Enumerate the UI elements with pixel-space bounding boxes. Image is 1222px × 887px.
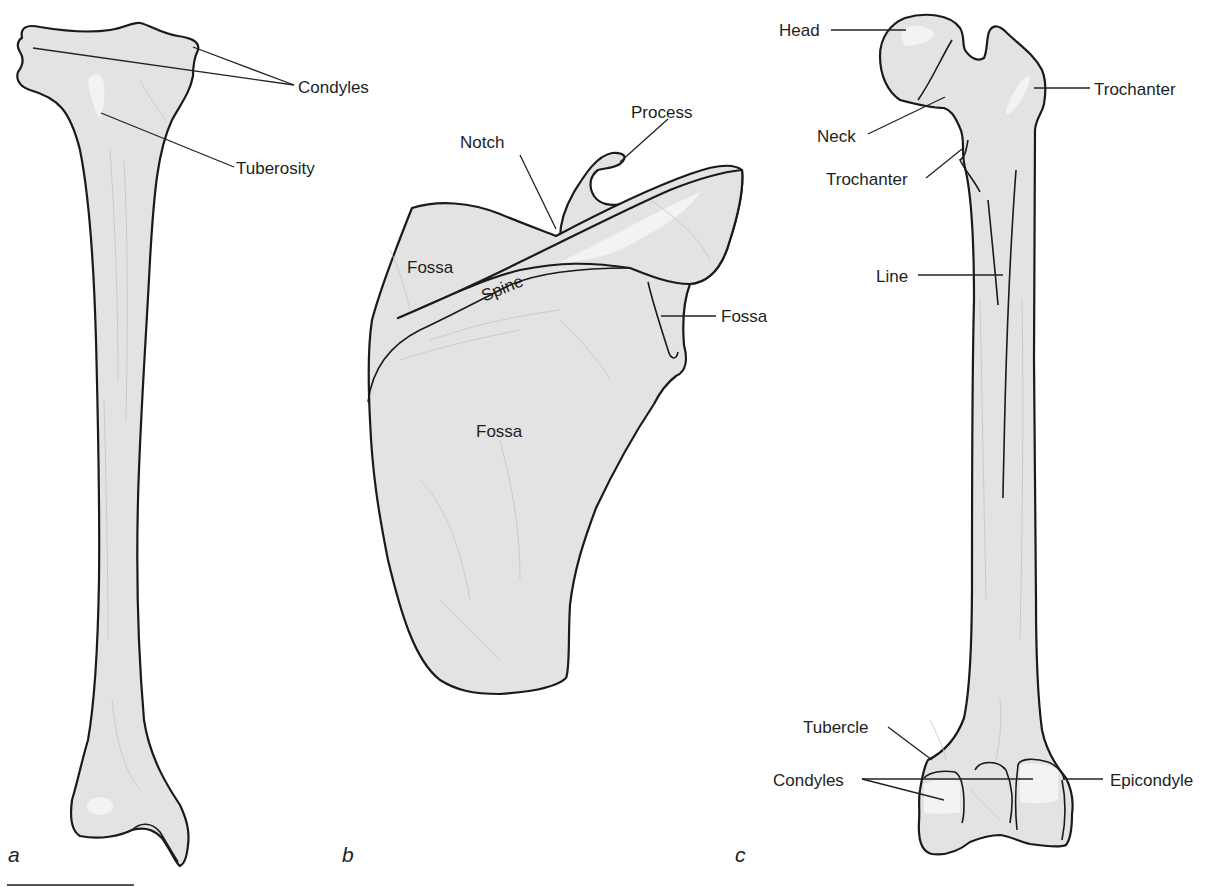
- label-epicondyle: Epicondyle: [1110, 771, 1193, 790]
- label-femur-condyles: Condyles: [773, 771, 844, 790]
- label-fossa-main: Fossa: [476, 422, 523, 441]
- panel-label-a: a: [8, 843, 20, 866]
- label-head: Head: [779, 21, 820, 40]
- label-fossa-side: Fossa: [721, 307, 768, 326]
- label-line: Line: [876, 267, 908, 286]
- label-notch: Notch: [460, 133, 504, 152]
- label-trochanter-lesser: Trochanter: [826, 170, 908, 189]
- label-process: Process: [631, 103, 692, 122]
- tibia-illustration: [17, 23, 198, 866]
- label-tubercle: Tubercle: [803, 718, 869, 737]
- panel-label-c: c: [735, 843, 746, 866]
- panel-label-b-text: b: [342, 843, 354, 866]
- label-neck: Neck: [817, 127, 856, 146]
- label-tibia-condyles: Condyles: [298, 78, 369, 97]
- label-trochanter-greater: Trochanter: [1094, 80, 1176, 99]
- femur-illustration: [880, 15, 1073, 855]
- label-tibia-tuberosity: Tuberosity: [236, 159, 315, 178]
- bone-anatomy-figure: Condyles Tuberosity a Process Notch Foss…: [0, 0, 1222, 887]
- label-fossa-upper: Fossa: [407, 258, 454, 277]
- scapula-illustration: [368, 153, 742, 694]
